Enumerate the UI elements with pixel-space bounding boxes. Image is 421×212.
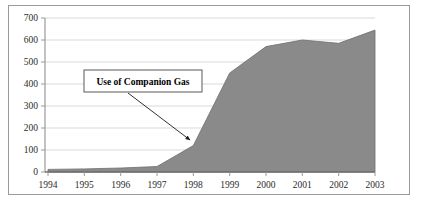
y-tick-label-400: 400	[24, 79, 39, 89]
x-tick-label-2002: 2002	[329, 180, 348, 190]
x-tick-label-2001: 2001	[293, 180, 312, 190]
x-tick-label-1996: 1996	[111, 180, 130, 190]
annotation-callout-label: Use of Companion Gas	[96, 77, 189, 87]
x-tick-label-1999: 1999	[220, 180, 239, 190]
area-chart: 700 600 500 400 300 200 100 0	[0, 0, 421, 212]
y-tick-label-0: 0	[33, 167, 38, 177]
chart-figure: 700 600 500 400 300 200 100 0	[0, 0, 421, 212]
y-axis-tick-labels: 700 600 500 400 300 200 100 0	[24, 13, 39, 177]
x-tick-label-1998: 1998	[184, 180, 203, 190]
y-tick-label-600: 600	[24, 35, 39, 45]
y-tick-label-500: 500	[24, 57, 39, 67]
x-tick-label-1995: 1995	[75, 180, 94, 190]
y-tick-label-300: 300	[24, 101, 39, 111]
x-tick-label-1997: 1997	[148, 180, 167, 190]
x-axis-tick-labels: 1994 1995 1996 1997 1998 1999 2000 2001 …	[39, 180, 385, 190]
x-tick-label-2003: 2003	[366, 180, 385, 190]
x-tick-label-1994: 1994	[39, 180, 58, 190]
x-tick-label-2000: 2000	[257, 180, 276, 190]
y-tick-label-700: 700	[24, 13, 39, 23]
y-tick-label-100: 100	[24, 145, 39, 155]
y-tick-label-200: 200	[24, 123, 39, 133]
